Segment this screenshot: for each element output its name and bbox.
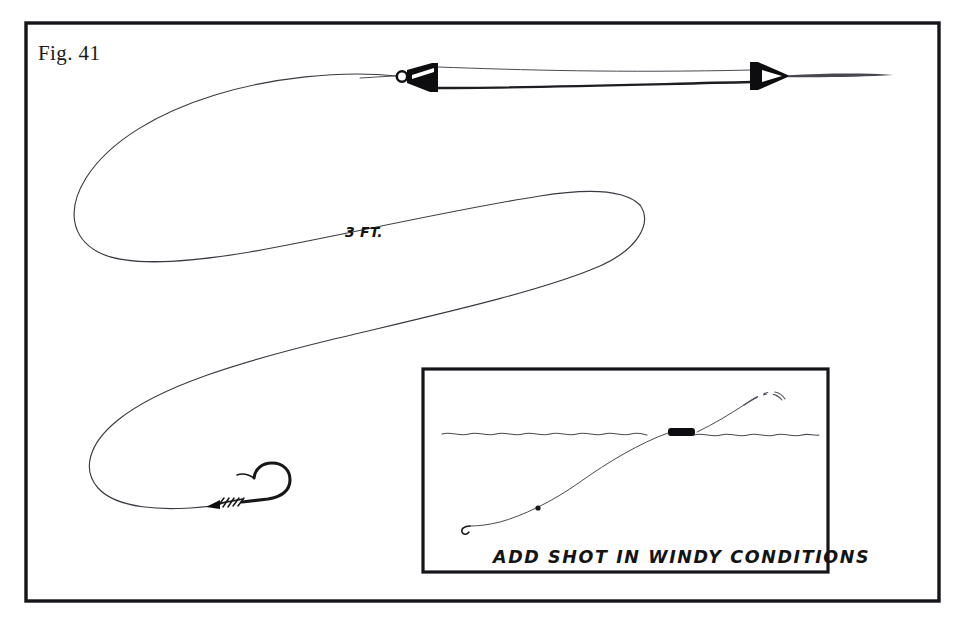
float-eye-ring xyxy=(397,71,407,81)
figure-page: Fig. 41 xyxy=(0,0,967,622)
split-shot xyxy=(535,505,540,510)
figure-canvas: Fig. 41 xyxy=(0,0,967,622)
inset-caption: ADD SHOT IN WINDY CONDITIONS xyxy=(491,547,870,567)
page-background xyxy=(0,0,967,622)
figure-label: Fig. 41 xyxy=(38,41,100,65)
float-at-surface xyxy=(668,428,695,436)
depth-label: 3 FT. xyxy=(345,224,383,240)
